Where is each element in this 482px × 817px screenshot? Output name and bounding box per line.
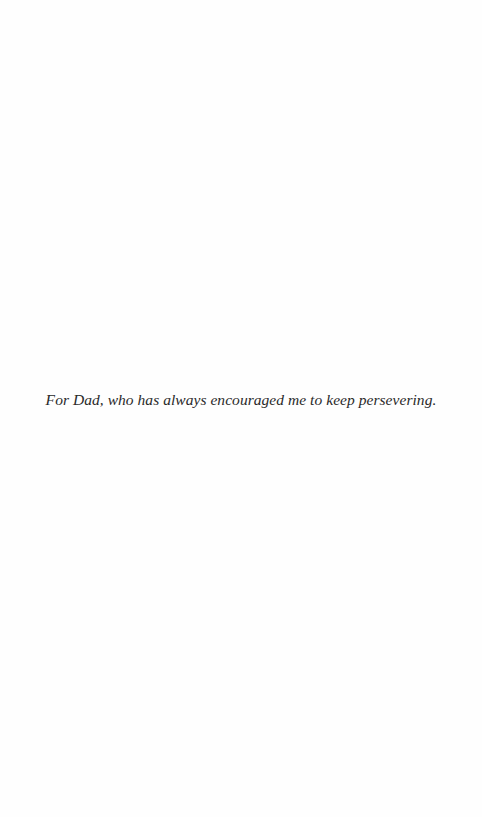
dedication-text: For Dad, who has always encouraged me to… (0, 389, 482, 411)
book-page: For Dad, who has always encouraged me to… (0, 0, 482, 817)
